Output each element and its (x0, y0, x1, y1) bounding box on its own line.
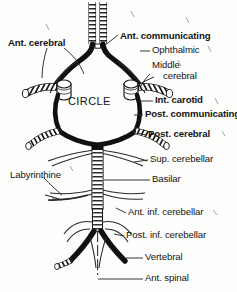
leader-ant-cerebral-2 (42, 48, 47, 78)
circle-center-label: CIRCLE (68, 96, 111, 107)
label-ant-cerebral: Ant. cerebral (8, 38, 65, 48)
basilar-artery (92, 145, 103, 209)
vertebral-arteries (55, 231, 125, 270)
lower-basilar-segment (93, 209, 103, 231)
label-post-communicating: Post. communicating (145, 109, 237, 119)
label-vertebral: Vertebral (145, 252, 183, 262)
label-post-inf-cerebellar: Post. inf. cerebellar (126, 230, 206, 240)
leader-ant-inf-cerebellar (116, 208, 126, 213)
label-post-cerebral: Post. cerebral (148, 129, 210, 139)
leader-labyrinthine (44, 178, 62, 195)
anterior-cerebral-arteries (89, 2, 107, 44)
label-middle-cerebral-line2: cerebral (163, 71, 197, 81)
label-ant-spinal: Ant. spinal (145, 273, 189, 283)
labyrinthine-artery (45, 195, 88, 200)
a1-segments (56, 44, 139, 84)
circle-of-willis-figure: CIRCLE Ant. cerebral Ant. communicating … (0, 0, 237, 292)
label-ant-inf-cerebellar: Ant. inf. cerebellar (128, 207, 203, 217)
label-basilar: Basilar (152, 174, 181, 184)
label-ant-communicating: Ant. communicating (120, 31, 210, 41)
label-labyrinthine: Labyrinthine (10, 170, 61, 180)
label-int-carotid: Int. carotid (155, 95, 203, 105)
label-sup-cerebellar: Sup. cerebellar (150, 154, 213, 164)
label-ophthalmic: Ophthalmic (152, 45, 200, 55)
anterior-communicating-artery (95, 44, 101, 48)
label-middle-cerebral-line1: Middle (152, 60, 180, 70)
